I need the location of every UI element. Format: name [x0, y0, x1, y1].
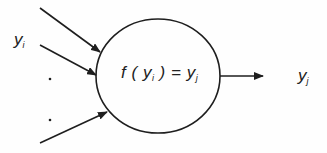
fn-open-paren: (	[131, 63, 137, 82]
node-function-label: f ( yi ) = yj	[121, 63, 198, 83]
fn-out-sub: j	[196, 73, 199, 83]
input-label-sub: i	[23, 40, 25, 50]
fn-name: f	[121, 63, 126, 82]
fn-arg: y	[143, 63, 152, 82]
input-label-base: y	[14, 30, 23, 49]
fn-out: y	[187, 63, 196, 82]
input-arrow-2	[40, 45, 96, 75]
output-label-base: y	[298, 66, 307, 85]
output-label-sub: j	[307, 76, 309, 86]
input-arrow-3	[40, 112, 107, 143]
neuron-diagram: yi f ( yi ) = yj yj	[0, 0, 327, 153]
fn-close-paren: )	[160, 63, 166, 82]
input-arrow-1	[40, 8, 100, 52]
ellipsis-dot-2	[49, 119, 52, 122]
ellipsis-dot-1	[49, 78, 52, 81]
fn-arg-sub: i	[152, 73, 155, 83]
output-label: yj	[298, 66, 309, 86]
input-label: yi	[14, 30, 25, 50]
fn-equals: =	[171, 63, 181, 82]
